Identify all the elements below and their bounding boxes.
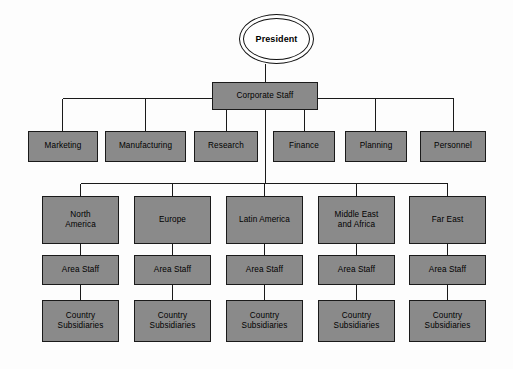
area-label: North America — [63, 210, 98, 231]
node-area-latin-america[interactable]: Latin America — [226, 196, 303, 244]
area-label: Europe — [157, 215, 188, 226]
node-department-personnel[interactable]: Personnel — [420, 131, 486, 162]
area-label: Latin America — [237, 215, 292, 226]
node-department-finance[interactable]: Finance — [273, 131, 335, 162]
department-label: Planning — [358, 141, 395, 152]
node-department-planning[interactable]: Planning — [345, 131, 407, 162]
department-label: Personnel — [432, 141, 474, 152]
country-subsidiaries-label: Country Subsidiaries — [56, 311, 106, 332]
node-area-middle-east-and-africa[interactable]: Middle East and Africa — [318, 196, 395, 244]
node-department-manufacturing[interactable]: Manufacturing — [105, 131, 186, 162]
node-department-research[interactable]: Research — [194, 131, 258, 162]
area-staff-label: Area Staff — [336, 265, 377, 276]
country-subsidiaries-label: Country Subsidiaries — [240, 311, 290, 332]
department-label: Manufacturing — [117, 141, 174, 152]
node-area-staff-latin-america[interactable]: Area Staff — [226, 255, 303, 285]
node-area-north-america[interactable]: North America — [42, 196, 119, 244]
area-staff-label: Area Staff — [152, 265, 193, 276]
department-label: Research — [206, 141, 246, 152]
node-corporate-staff[interactable]: Corporate Staff — [212, 82, 318, 110]
node-area-staff-north-america[interactable]: Area Staff — [42, 255, 119, 285]
area-staff-label: Area Staff — [60, 265, 101, 276]
node-area-far-east[interactable]: Far East — [409, 196, 486, 244]
node-country-subsidiaries-europe[interactable]: Country Subsidiaries — [134, 300, 211, 342]
node-country-subsidiaries-latin-america[interactable]: Country Subsidiaries — [226, 300, 303, 342]
department-label: Marketing — [43, 141, 84, 152]
area-label: Middle East and Africa — [333, 210, 381, 231]
node-country-subsidiaries-north-america[interactable]: Country Subsidiaries — [42, 300, 119, 342]
node-department-marketing[interactable]: Marketing — [28, 131, 98, 162]
node-president[interactable]: President — [239, 14, 314, 64]
node-area-europe[interactable]: Europe — [134, 196, 211, 244]
org-chart: President Corporate Staff Marketing Manu… — [0, 0, 513, 369]
country-subsidiaries-label: Country Subsidiaries — [423, 311, 473, 332]
node-country-subsidiaries-middle-east-and-africa[interactable]: Country Subsidiaries — [318, 300, 395, 342]
department-label: Finance — [287, 141, 321, 152]
node-area-staff-europe[interactable]: Area Staff — [134, 255, 211, 285]
corporate-staff-label: Corporate Staff — [235, 91, 296, 102]
country-subsidiaries-label: Country Subsidiaries — [148, 311, 198, 332]
area-staff-label: Area Staff — [244, 265, 285, 276]
country-subsidiaries-label: Country Subsidiaries — [332, 311, 382, 332]
president-label: President — [256, 34, 298, 44]
node-area-staff-far-east[interactable]: Area Staff — [409, 255, 486, 285]
area-staff-label: Area Staff — [427, 265, 468, 276]
node-area-staff-middle-east-and-africa[interactable]: Area Staff — [318, 255, 395, 285]
area-label: Far East — [430, 215, 466, 226]
node-country-subsidiaries-far-east[interactable]: Country Subsidiaries — [409, 300, 486, 342]
